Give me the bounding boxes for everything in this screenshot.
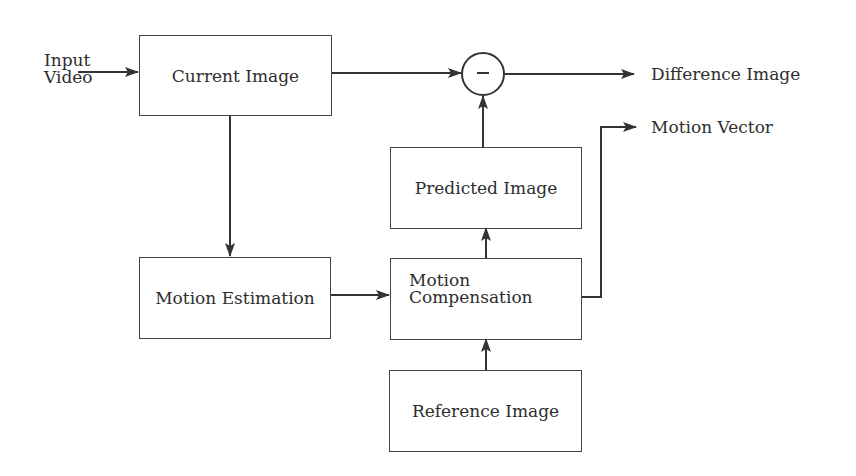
- difference-image-label: Difference Image: [651, 65, 800, 83]
- motion-compensation-label: Motion Compensation: [409, 272, 533, 306]
- predicted-image-label: Predicted Image: [415, 178, 558, 198]
- motion-compensation-block: Motion Compensation: [390, 258, 582, 340]
- input-label-line2: Video: [44, 69, 93, 86]
- reference-image-block: Reference Image: [389, 370, 582, 452]
- motion-vector-label: Motion Vector: [651, 118, 773, 136]
- motion-estimation-label: Motion Estimation: [155, 288, 315, 308]
- input-video-label: Input Video: [44, 52, 93, 86]
- current-image-label: Current Image: [172, 66, 299, 86]
- predicted-image-block: Predicted Image: [390, 147, 582, 229]
- reference-image-label: Reference Image: [412, 401, 559, 421]
- motion-compensation-line2: Compensation: [409, 289, 533, 306]
- arrow-compensation-to-motion-vector: [581, 127, 636, 297]
- current-image-block: Current Image: [139, 35, 332, 116]
- motion-estimation-block: Motion Estimation: [139, 257, 331, 339]
